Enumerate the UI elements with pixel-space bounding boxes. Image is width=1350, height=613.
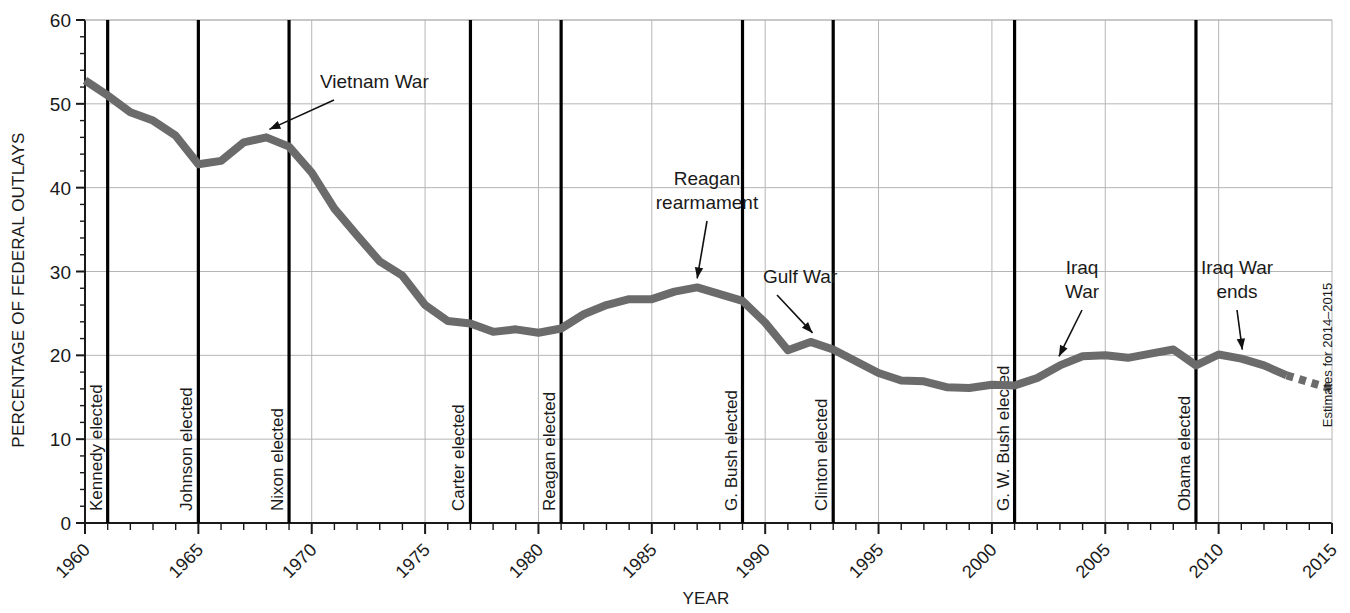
- y-tick-label-40: 40: [50, 178, 71, 199]
- annotation-line: Gulf War: [763, 266, 838, 287]
- election-label-1969: Nixon elected: [268, 408, 287, 511]
- y-tick-label-0: 0: [60, 513, 71, 534]
- annotation-line: ends: [1216, 281, 1257, 302]
- annotation-line: Iraq: [1066, 257, 1099, 278]
- election-label-1981: Reagan elected: [540, 392, 559, 511]
- chart-background: [0, 0, 1350, 613]
- x-axis-title: YEAR: [682, 589, 729, 608]
- annotation-line: Vietnam War: [320, 71, 429, 92]
- election-label-1993: Clinton elected: [812, 399, 831, 511]
- annotation-line: rearmament: [656, 192, 759, 213]
- election-label-1977: Carter elected: [449, 404, 468, 511]
- y-axis-title: PERCENTAGE OF FEDERAL OUTLAYS: [9, 132, 28, 447]
- defense-spending-line-chart: 0102030405060 19601965197019751980198519…: [0, 0, 1350, 613]
- annotation-line: Iraq War: [1201, 257, 1274, 278]
- y-tick-label-60: 60: [50, 10, 71, 31]
- election-label-1989: G. Bush elected: [722, 390, 741, 511]
- y-tick-label-50: 50: [50, 94, 71, 115]
- election-label-1961: Kennedy elected: [87, 384, 106, 511]
- y-tick-label-30: 30: [50, 262, 71, 283]
- y-tick-label-10: 10: [50, 429, 71, 450]
- election-label-1965: Johnson elected: [177, 387, 196, 511]
- annotation-line: War: [1065, 281, 1100, 302]
- estimates-note: Estimates for 2014–2015: [1320, 283, 1335, 428]
- annotation-line: Reagan: [674, 168, 741, 189]
- chart-root: 0102030405060 19601965197019751980198519…: [0, 0, 1350, 613]
- election-label-2009: Obama elected: [1175, 396, 1194, 511]
- y-tick-label-20: 20: [50, 345, 71, 366]
